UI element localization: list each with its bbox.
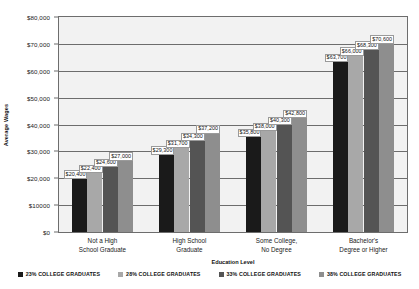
bar: [72, 177, 87, 232]
y-axis-tick-label: $80,000: [27, 14, 50, 21]
legend-swatch: [118, 272, 123, 277]
bar: [118, 159, 133, 232]
y-axis-tick-label: $20,000: [27, 175, 50, 182]
bar: [292, 117, 307, 232]
legend-item: 33% COLLEGE GRADUATES: [219, 271, 301, 277]
y-axis-tick-label: $0: [43, 229, 50, 236]
bar: [174, 147, 189, 232]
x-axis-category-label: High SchoolGraduate: [145, 236, 235, 255]
x-axis-category-line: High School: [145, 236, 235, 245]
x-axis-category-line: Some College,: [232, 236, 322, 245]
y-axis-tick-labels: $80,000$70,000$60,000$50,000$40,000$30,0…: [0, 16, 54, 233]
bar-chart: Average Wages $80,000$70,000$60,000$50,0…: [0, 0, 419, 289]
legend-label: 33% COLLEGE GRADUATES: [227, 271, 301, 277]
legend-label: 38% COLLEGE GRADUATES: [327, 271, 401, 277]
bar-group: $29,300$31,700$34,300$37,200: [146, 17, 233, 232]
y-axis-tick-label: $40,000: [27, 121, 50, 128]
bar-value-label: $27,000: [109, 152, 133, 161]
bar: [205, 132, 220, 232]
x-axis-category-label: Bachelor'sDegree or Higher: [319, 236, 409, 255]
bar: [159, 153, 174, 232]
legend-label: 28% COLLEGE GRADUATES: [126, 271, 200, 277]
x-axis-category-label: Some College,No Degree: [232, 236, 322, 255]
chart-legend: 23% COLLEGE GRADUATES28% COLLEGE GRADUAT…: [0, 271, 419, 277]
x-axis-title: Education Level: [58, 259, 408, 265]
legend-swatch: [319, 272, 324, 277]
bar: [261, 130, 276, 232]
x-axis-category-line: No Degree: [232, 245, 322, 254]
legend-item: 23% COLLEGE GRADUATES: [18, 271, 100, 277]
legend-item: 28% COLLEGE GRADUATES: [118, 271, 200, 277]
bar-value-label: $34,300: [181, 133, 205, 142]
x-axis-category-line: Degree or Higher: [319, 245, 409, 254]
bar-value-label: $42,800: [283, 110, 307, 119]
y-axis-tick-label: $50,000: [27, 94, 50, 101]
bar-value-label: $70,600: [370, 35, 394, 44]
x-axis-category-line: School Graduate: [58, 245, 148, 254]
bar-value-label: $37,200: [196, 125, 220, 134]
x-axis-category-line: Bachelor's: [319, 236, 409, 245]
y-axis-tick-label: $70,000: [27, 40, 50, 47]
y-axis-tick-label: $60,000: [27, 67, 50, 74]
y-axis-tick-label: $30,000: [27, 148, 50, 155]
bar: [364, 48, 379, 232]
y-axis-tick-label: $10000: [29, 202, 50, 209]
bar: [277, 124, 292, 232]
bar-group: $63,700$66,000$68,300$70,600: [320, 17, 407, 232]
bar: [87, 172, 102, 232]
bars-layer: $20,400$22,400$24,600$27,000$29,300$31,7…: [59, 17, 407, 232]
legend-item: 38% COLLEGE GRADUATES: [319, 271, 401, 277]
legend-label: 23% COLLEGE GRADUATES: [26, 271, 100, 277]
x-axis-category-label: Not a HighSchool Graduate: [58, 236, 148, 255]
bar: [246, 136, 261, 232]
bar-group: $20,400$22,400$24,600$27,000: [59, 17, 146, 232]
bar: [333, 61, 348, 232]
bar: [348, 55, 363, 232]
bar-group: $35,800$38,000$40,300$42,800: [233, 17, 320, 232]
legend-swatch: [18, 272, 23, 277]
legend-swatch: [219, 272, 224, 277]
bar: [103, 166, 118, 232]
x-axis-category-line: Graduate: [145, 245, 235, 254]
x-axis-category-labels: Not a HighSchool GraduateHigh SchoolGrad…: [58, 236, 408, 260]
bar: [190, 140, 205, 232]
x-axis-category-line: Not a High: [58, 236, 148, 245]
bar: [379, 42, 394, 232]
